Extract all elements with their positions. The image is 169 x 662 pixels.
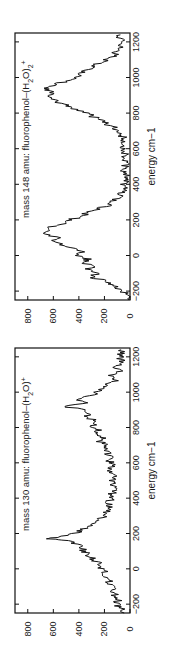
x-tick-label: 0 <box>131 253 141 258</box>
x-axis-label: energy cm−1 <box>146 441 157 500</box>
x-axis-label: energy cm−1 <box>146 127 157 186</box>
y-tick-label: 400 <box>74 621 84 636</box>
x-tick-label: 1200 <box>131 347 141 367</box>
y-tick-label: 600 <box>48 308 58 323</box>
x-tick-label: 600 <box>131 455 141 470</box>
x-tick-label: 200 <box>131 526 141 541</box>
panel-mass-148: −2000200400600800100012000200400600800en… <box>15 32 157 324</box>
y-tick-label: 800 <box>23 621 33 636</box>
chart-title: mass 130 amu: fluorophenol–(H2O)+ <box>20 377 34 531</box>
y-tick-label: 200 <box>99 621 109 636</box>
y-tick-label: 0 <box>125 626 135 631</box>
chart-title: mass 148 amu: fluorophenol–(H2O)2+ <box>20 60 34 218</box>
x-tick-label: 800 <box>131 106 141 121</box>
plot-frame <box>15 33 130 300</box>
x-tick-label: 400 <box>131 177 141 192</box>
spectrum-line <box>46 350 125 613</box>
x-tick-label: 1000 <box>131 382 141 402</box>
x-tick-label: 800 <box>131 420 141 435</box>
y-tick-label: 600 <box>48 621 58 636</box>
x-tick-label: 400 <box>131 491 141 506</box>
plot-frame <box>15 348 130 613</box>
spectrum-line <box>43 35 130 300</box>
x-tick-label: 200 <box>131 212 141 227</box>
y-tick-label: 400 <box>74 308 84 323</box>
x-tick-label: 1000 <box>131 67 141 87</box>
x-tick-label: 1200 <box>131 32 141 52</box>
spectra-figure: −2000200400600800100012000200400600800en… <box>0 0 169 662</box>
x-tick-label: −200 <box>131 281 141 301</box>
x-tick-label: 0 <box>131 566 141 571</box>
y-tick-label: 0 <box>125 313 135 318</box>
x-tick-label: −200 <box>131 594 141 614</box>
x-tick-label: 600 <box>131 141 141 156</box>
y-tick-label: 200 <box>99 308 109 323</box>
y-tick-label: 800 <box>23 308 33 323</box>
panel-mass-130: −2000200400600800100012000200400600800en… <box>15 347 157 637</box>
